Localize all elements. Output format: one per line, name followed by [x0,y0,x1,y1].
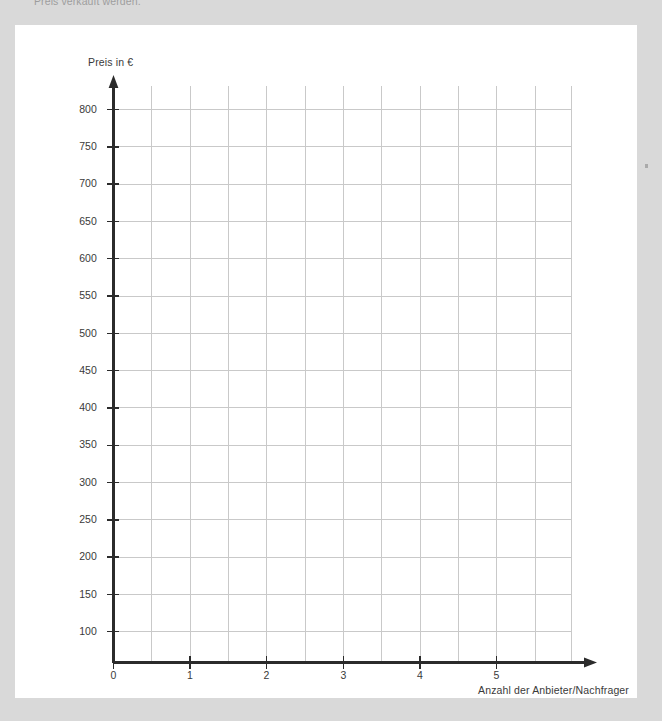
x-axis [113,658,598,668]
worksheet-card: Preis in € Anzahl der Anbieter/Nachfrage… [15,25,637,698]
vertical-gridlines [114,86,572,662]
y-tick-label-250: 250 [63,513,97,525]
chart-canvas [55,41,662,714]
cropped-heading-text: Preis verkauft werden. [34,0,294,7]
page-speck-artifact [645,164,648,168]
y-tick-label-450: 450 [63,364,97,376]
x-tick-label-4: 4 [408,669,432,681]
x-axis-title: Anzahl der Anbieter/Nachfrager [478,684,629,696]
y-tick-label-150: 150 [63,588,97,600]
horizontal-gridlines [113,110,572,632]
y-tick-label-800: 800 [63,103,97,115]
y-axis [109,75,119,663]
y-tick-label-750: 750 [63,140,97,152]
x-tick-label-1: 1 [178,669,202,681]
x-tick-label-0: 0 [102,669,126,681]
x-axis-arrowhead [584,658,597,668]
x-tick-label-5: 5 [485,669,509,681]
x-tick-label-2: 2 [255,669,279,681]
y-tick-label-550: 550 [63,289,97,301]
y-tick-label-300: 300 [63,476,97,488]
coordinate-grid-chart: Preis in € Anzahl der Anbieter/Nachfrage… [55,41,662,714]
y-tick-label-700: 700 [63,177,97,189]
y-tick-label-500: 500 [63,327,97,339]
y-tick-label-350: 350 [63,438,97,450]
y-tick-label-400: 400 [63,401,97,413]
y-tick-label-650: 650 [63,215,97,227]
y-axis-arrowhead [109,75,119,88]
y-tick-label-200: 200 [63,550,97,562]
y-tick-label-600: 600 [63,252,97,264]
y-axis-title: Preis in € [88,56,133,68]
y-tick-label-100: 100 [63,625,97,637]
x-tick-label-3: 3 [332,669,356,681]
